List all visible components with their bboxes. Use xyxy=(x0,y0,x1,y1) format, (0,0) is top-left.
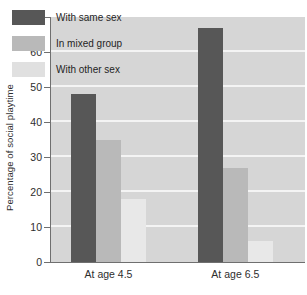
bar xyxy=(223,168,248,263)
bar xyxy=(121,199,146,262)
legend-item: With same sex xyxy=(12,4,162,30)
bar xyxy=(71,94,96,262)
x-axis-label: At age 4.5 xyxy=(85,268,133,280)
x-axis-labels: At age 4.5At age 6.5 xyxy=(51,268,305,288)
legend-item: With other sex xyxy=(12,56,162,82)
legend-swatch xyxy=(12,62,45,77)
legend-item: In mixed group xyxy=(12,30,162,56)
bar-chart: Percentage of social playtime 0102030405… xyxy=(0,0,307,295)
legend-swatch xyxy=(12,10,45,25)
bar xyxy=(248,241,273,262)
bar xyxy=(96,140,121,263)
x-axis-line xyxy=(50,262,305,263)
x-axis-label: At age 6.5 xyxy=(211,268,259,280)
bar xyxy=(198,28,223,263)
legend-swatch xyxy=(12,36,45,51)
legend-label: With other sex xyxy=(56,64,120,75)
legend: With same sexIn mixed groupWith other se… xyxy=(12,4,162,82)
legend-label: With same sex xyxy=(56,12,122,23)
legend-label: In mixed group xyxy=(56,38,122,49)
